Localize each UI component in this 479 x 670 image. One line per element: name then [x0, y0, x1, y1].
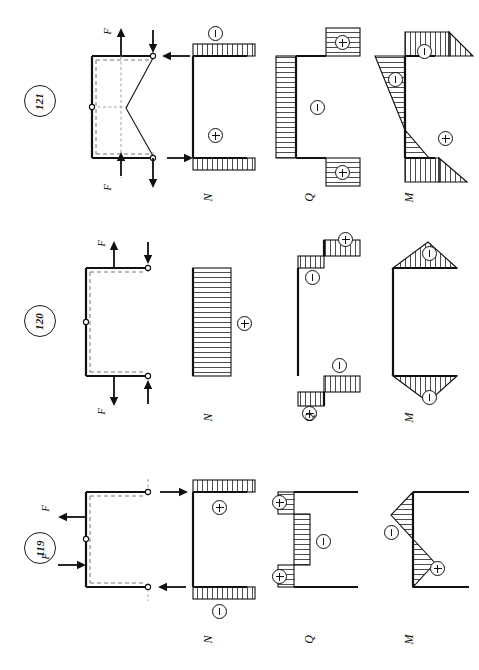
caption-moment-121: M — [402, 193, 417, 203]
load-arrow-left-upper — [58, 513, 86, 521]
sign-positive-q-top-121 — [335, 35, 350, 50]
baseline-beams — [393, 268, 457, 376]
load-arrow-up-bottomright — [144, 380, 152, 404]
force-label-upper-119: F — [40, 505, 51, 511]
sign-negative-m-top-120 — [422, 246, 437, 261]
load-arrow-up-top — [117, 28, 125, 56]
caption-normal-120: N — [201, 413, 216, 421]
hinge-joint-mid — [83, 536, 88, 541]
baseline-beams — [193, 56, 247, 158]
caption-moment-119: M — [402, 635, 417, 645]
shear-block-top-inner — [298, 256, 324, 268]
load-arrow-up-bottom — [117, 152, 125, 176]
problem-row-120: 120 F — [0, 220, 473, 440]
sign-negative-q-column-121 — [310, 100, 325, 115]
hinge-joint-top — [145, 265, 150, 270]
frame-deformed-dashed — [90, 496, 145, 583]
moment-column-lower — [405, 130, 429, 158]
sign-positive-q-top-120 — [338, 232, 353, 247]
reaction-arrow-right-top — [160, 488, 188, 496]
shear-block-bottom-inner — [324, 376, 360, 392]
sign-positive-q-bottom-119 — [272, 569, 287, 584]
shear-band-column — [276, 56, 296, 158]
moment-diagram-119 — [383, 447, 479, 647]
shear-band-column — [294, 514, 310, 565]
sign-positive-m-bottom-121 — [438, 131, 453, 146]
caption-normal-121: N — [201, 193, 216, 201]
sign-positive-n-119 — [212, 500, 227, 515]
sign-positive-q-top-119 — [272, 495, 287, 510]
frame-diagonal-lines — [126, 58, 153, 156]
frame-sketch-120 — [0, 220, 200, 440]
sign-positive-n-121 — [208, 128, 223, 143]
load-arrow-up-top — [110, 241, 118, 268]
moment-top-triangle — [449, 32, 473, 56]
normal-band-top — [193, 44, 255, 56]
caption-moment-120: M — [402, 413, 417, 423]
sign-negative-m-bottom-120 — [422, 390, 437, 405]
hinge-joint-bottom — [145, 373, 150, 378]
load-arrow-down-bottomright — [149, 158, 157, 188]
force-label-bottom-120: F — [96, 408, 107, 414]
sign-positive-m-119 — [430, 561, 445, 576]
load-arrow-down-topright — [144, 242, 152, 264]
normal-band-bottom — [193, 587, 255, 599]
load-arrow-down-topright — [149, 30, 157, 53]
sign-negative-q-column-119 — [316, 534, 331, 549]
force-label-top-120: F — [96, 240, 107, 246]
sign-negative-m-column-121 — [388, 72, 403, 87]
moment-bottom-triangle — [439, 158, 467, 182]
hinge-joint-top — [145, 489, 150, 494]
sign-negative-n-121 — [208, 26, 223, 41]
sign-negative-q-top-120 — [305, 270, 320, 285]
shear-block-bottom-outer — [298, 392, 324, 406]
normal-band-bottom — [193, 158, 255, 170]
load-arrow-right-lower — [58, 561, 86, 569]
hinge-joint-mid — [89, 104, 94, 109]
force-label-top-121: F — [102, 28, 113, 34]
sign-positive-q-bottom-121 — [335, 165, 350, 180]
caption-shear-121: Q — [302, 193, 317, 202]
load-arrow-down-bottom — [110, 376, 118, 406]
sign-negative-m-top-121 — [417, 44, 432, 59]
moment-bottom-rect — [405, 158, 439, 182]
sign-positive-n-120 — [237, 316, 252, 331]
frame-member-outline — [86, 492, 148, 587]
normal-band-top — [193, 480, 255, 492]
frame-sketch-119 — [0, 447, 200, 667]
moment-diagram-121 — [383, 0, 479, 200]
problem-row-119: 119 F — [0, 447, 473, 667]
caption-normal-119: N — [201, 635, 216, 643]
frame-sketch-121 — [0, 0, 200, 220]
hinge-joint-bottom — [145, 584, 150, 589]
normal-band-column — [193, 268, 231, 376]
reaction-arrow-left-bottom — [158, 583, 186, 591]
caption-shear-120: Q — [302, 413, 317, 422]
hinge-joint-mid — [83, 319, 88, 324]
sign-negative-n-119 — [212, 604, 227, 619]
sign-negative-q-bottom-120 — [332, 358, 347, 373]
frame-member-outline — [86, 268, 148, 376]
force-label-lower-119: F — [40, 553, 51, 559]
frame-deformed-dashed — [90, 272, 145, 372]
force-label-bottom-121: F — [102, 184, 113, 190]
problem-row-121: 121 — [0, 0, 473, 220]
sign-negative-m-119 — [384, 525, 399, 540]
hinge-joint-top — [150, 53, 155, 58]
caption-shear-119: Q — [302, 635, 317, 644]
